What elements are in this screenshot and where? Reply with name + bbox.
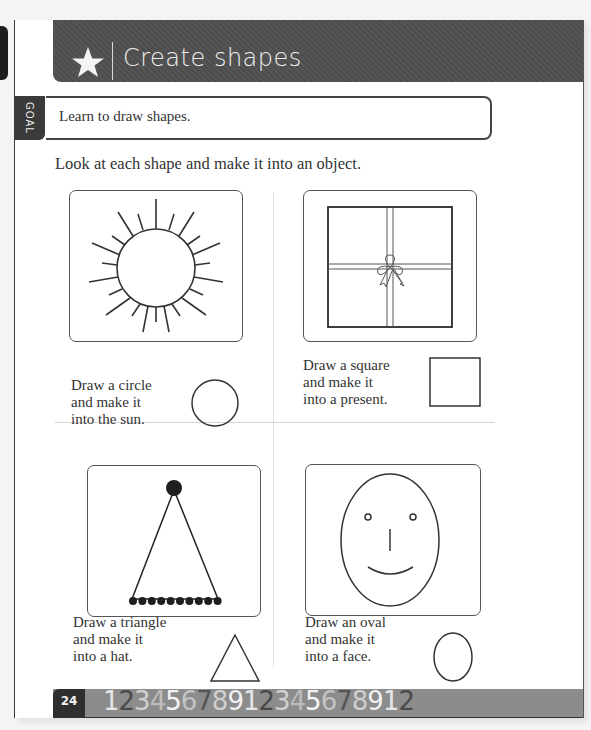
goal-text: Learn to draw shapes.	[59, 108, 191, 125]
face-caption: Draw an oval and make it into a face.	[305, 614, 386, 665]
strip-digit: 1	[243, 686, 259, 716]
number-strip: 12345678912345678912	[103, 686, 414, 716]
circle-shape-icon	[190, 378, 240, 428]
strip-digit: 2	[119, 686, 135, 716]
face-illustration	[306, 465, 480, 615]
header-divider	[112, 42, 113, 80]
triangle-shape-icon	[209, 633, 261, 683]
strip-digit: 4	[150, 686, 166, 716]
oval-shape-icon	[432, 631, 474, 683]
hat-caption: Draw a triangle and make it into a hat.	[73, 614, 166, 665]
strip-digit: 7	[336, 686, 352, 716]
instruction-text: Look at each shape and make it into an o…	[55, 154, 361, 174]
face-picture-card	[305, 464, 481, 616]
hat-picture-card	[87, 465, 261, 617]
page-title: Create shapes	[123, 44, 302, 72]
page-number: 24	[53, 694, 85, 708]
binding-tab	[0, 26, 8, 80]
strip-digit: 3	[134, 686, 150, 716]
present-caption: Draw a square and make it into a present…	[303, 357, 390, 408]
strip-digit: 8	[352, 686, 368, 716]
strip-digit: 2	[398, 686, 414, 716]
strip-digit: 7	[196, 686, 212, 716]
sun-caption: Draw a circle and make it into the sun.	[71, 377, 152, 428]
strip-digit: 9	[227, 686, 243, 716]
party-hat-illustration	[88, 466, 260, 616]
strip-digit: 1	[383, 686, 399, 716]
sun-illustration	[70, 191, 242, 341]
workbook-page: Create shapes GOAL Learn to draw shapes.…	[14, 20, 584, 718]
present-picture-card	[303, 190, 477, 342]
page-header: Create shapes	[53, 20, 583, 82]
strip-digit: 3	[274, 686, 290, 716]
page-number-box: 24	[53, 689, 85, 717]
strip-digit: 6	[321, 686, 337, 716]
vertical-divider	[273, 192, 274, 667]
strip-digit: 5	[165, 686, 181, 716]
strip-digit: 6	[181, 686, 197, 716]
strip-digit: 1	[103, 686, 119, 716]
strip-digit: 4	[290, 686, 306, 716]
present-illustration	[304, 191, 476, 341]
goal-label: GOAL	[17, 100, 41, 136]
square-shape-icon	[429, 357, 483, 407]
sun-picture-card	[69, 190, 243, 342]
star-icon	[71, 46, 105, 80]
page-footer: 24 12345678912345678912	[53, 689, 583, 718]
strip-digit: 8	[212, 686, 228, 716]
strip-digit: 2	[258, 686, 274, 716]
strip-digit: 9	[367, 686, 383, 716]
strip-digit: 5	[305, 686, 321, 716]
